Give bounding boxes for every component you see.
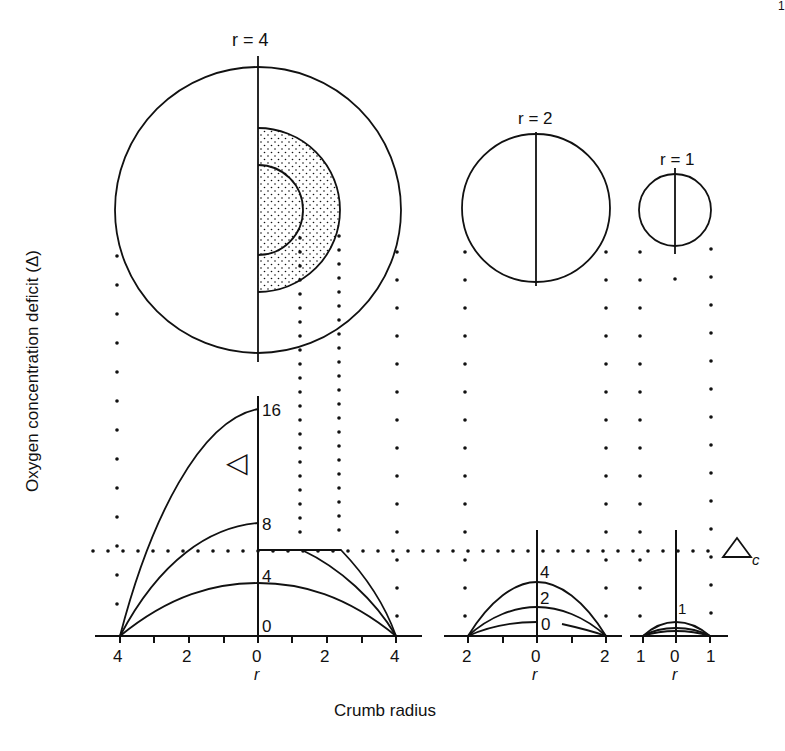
guide-dot (337, 528, 341, 532)
guide-dot (646, 549, 650, 553)
tick-label: 1 (636, 647, 645, 666)
guide-dot (463, 306, 467, 310)
guide-dot (298, 418, 302, 422)
guide-dot (709, 611, 713, 615)
crumb-r4-label: r = 4 (232, 30, 269, 50)
label-r2-0: 0 (541, 615, 550, 634)
guide-dot (604, 334, 608, 338)
guide-dot (709, 359, 713, 363)
guide-dot (604, 390, 608, 394)
guide-dot (709, 247, 713, 251)
guide-dot (463, 614, 467, 618)
guide-dot (526, 549, 530, 553)
tick-label: 4 (113, 647, 122, 666)
guide-dot (337, 374, 341, 378)
guide-dot (631, 549, 635, 553)
guide-dot (709, 275, 713, 279)
guide-dot (298, 334, 302, 338)
guide-dot (638, 558, 642, 562)
guide-dot (337, 500, 341, 504)
graph-r2: 4 2 0 2 0 2 r (444, 530, 622, 683)
guide-dot (337, 262, 341, 266)
guide-dot (91, 549, 95, 553)
guide-dot (298, 278, 302, 282)
oxygen-deficit-diagram: 1 r = 4 r = 2 r = 1 (0, 0, 785, 751)
label-r2-2: 2 (540, 589, 549, 608)
guide-dot (638, 362, 642, 366)
guide-dot (709, 331, 713, 335)
label-0: 0 (262, 617, 271, 636)
guide-dot (136, 549, 140, 553)
guide-dot (395, 446, 399, 450)
guide-dot (298, 530, 302, 534)
guide-dot (121, 549, 125, 553)
guide-dot (298, 474, 302, 478)
tick-label: 1 (706, 647, 715, 666)
label-16: 16 (262, 401, 281, 420)
guide-dot (463, 530, 467, 534)
guide-dot (463, 278, 467, 282)
guide-dot (691, 549, 695, 553)
guide-dot (337, 444, 341, 448)
critical-deficit-label: c (723, 538, 760, 568)
guide-dot (709, 555, 713, 559)
delta-c-icon (723, 538, 751, 557)
guide-dot (638, 614, 642, 618)
guide-dot (709, 527, 713, 531)
graph-r4: 16 8 4 0 ◁ 4 2 0 2 4 r (95, 396, 422, 683)
guide-dot (604, 418, 608, 422)
guide-dot (586, 549, 590, 553)
guide-dot (298, 264, 302, 268)
guide-dot (337, 304, 341, 308)
guide-dot (151, 549, 155, 553)
guide-dot (346, 549, 350, 553)
guide-dot (604, 362, 608, 366)
guide-dot (337, 472, 341, 476)
guide-dot (638, 306, 642, 310)
tick-label: 2 (600, 647, 609, 666)
guide-dot (241, 549, 245, 553)
guide-dot (638, 586, 642, 590)
guide-dot (115, 544, 119, 548)
guide-dot (298, 362, 302, 366)
crumb-r1-label: r = 1 (660, 150, 695, 169)
guide-dot (395, 390, 399, 394)
guide-dot (709, 499, 713, 503)
guide-dot (463, 250, 467, 254)
guide-dot (709, 443, 713, 447)
guide-dot (638, 474, 642, 478)
guide-dot (466, 549, 470, 553)
tick-label: 2 (320, 647, 329, 666)
guide-dot (337, 430, 341, 434)
guide-dot (463, 418, 467, 422)
guide-dot (361, 549, 365, 553)
axis-label-r: r (532, 666, 538, 683)
page-mark: 1 (778, 0, 785, 13)
guide-dot (395, 418, 399, 422)
guide-dot (337, 388, 341, 392)
guide-dot (395, 250, 399, 254)
guide-dot (463, 390, 467, 394)
guide-dot (115, 573, 119, 577)
guide-dot (406, 549, 410, 553)
tick-label: 2 (182, 647, 191, 666)
guide-dot (638, 446, 642, 450)
guide-dot (638, 530, 642, 534)
guide-dot (556, 549, 560, 553)
guide-dot (298, 516, 302, 520)
guide-dot (395, 334, 399, 338)
guide-dot (463, 334, 467, 338)
guide-dot (638, 334, 642, 338)
delta-symbol-icon: ◁ (226, 447, 248, 478)
guide-dot (298, 390, 302, 394)
crumb-r2-label: r = 2 (518, 109, 553, 128)
guide-dot (115, 399, 119, 403)
tick-label: 4 (390, 647, 399, 666)
guide-dot (337, 458, 341, 462)
crumb-r2: r = 2 (462, 109, 610, 286)
guide-dot (638, 502, 642, 506)
guide-dot (337, 276, 341, 280)
guide-dot (604, 278, 608, 282)
guide-dot (463, 558, 467, 562)
guide-dot (211, 549, 215, 553)
